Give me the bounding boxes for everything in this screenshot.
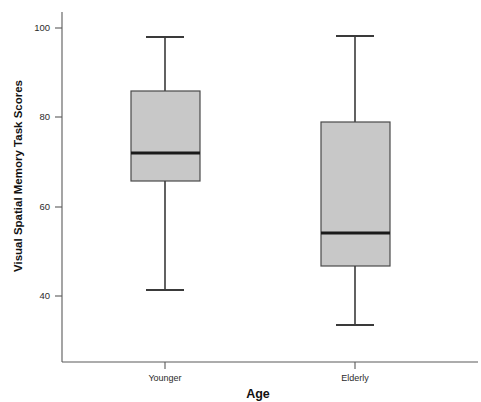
boxplot-figure: Visual Spatial Memory Task Scores 40 60 … — [0, 0, 481, 402]
x-tick-label-younger: Younger — [148, 373, 181, 383]
y-axis-title: Visual Spatial Memory Task Scores — [12, 80, 24, 272]
box-younger — [131, 91, 200, 181]
box-elderly — [321, 122, 390, 266]
boxplot-group-elderly — [321, 36, 390, 325]
y-tick-label-40: 40 — [39, 290, 50, 301]
y-tick-label-80: 80 — [39, 111, 50, 122]
boxplot-group-younger — [131, 37, 200, 290]
x-axis-title: Age — [246, 387, 270, 401]
y-tick-label-100: 100 — [34, 22, 50, 33]
y-tick-label-60: 60 — [39, 201, 50, 212]
chart-canvas: Visual Spatial Memory Task Scores 40 60 … — [0, 0, 481, 402]
x-tick-label-elderly: Elderly — [341, 373, 369, 383]
